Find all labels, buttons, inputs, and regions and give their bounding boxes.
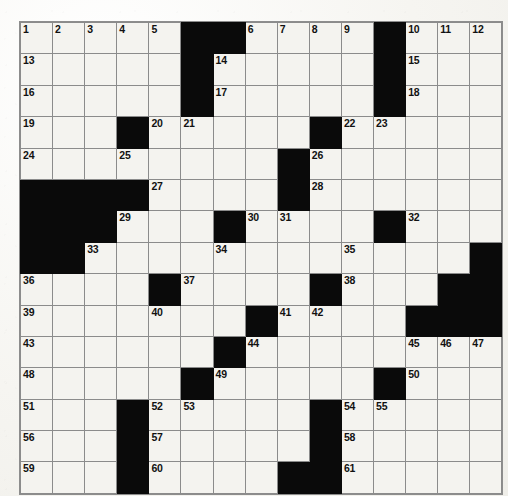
grid-cell[interactable] xyxy=(213,305,245,336)
grid-cell[interactable]: 1 xyxy=(21,23,53,54)
grid-cell[interactable] xyxy=(117,274,149,305)
grid-cell[interactable] xyxy=(213,179,245,210)
grid-cell[interactable] xyxy=(245,368,277,399)
grid-cell[interactable]: 28 xyxy=(309,179,341,210)
grid-cell[interactable] xyxy=(181,148,213,179)
grid-cell[interactable] xyxy=(85,85,117,116)
grid-cell[interactable]: 49 xyxy=(213,368,245,399)
grid-cell[interactable] xyxy=(117,336,149,367)
grid-cell[interactable] xyxy=(53,54,85,85)
grid-cell[interactable] xyxy=(149,368,181,399)
grid-cell[interactable] xyxy=(438,368,470,399)
grid-cell[interactable] xyxy=(85,274,117,305)
grid-cell[interactable] xyxy=(470,431,502,462)
grid-cell[interactable]: 9 xyxy=(341,23,373,54)
grid-cell[interactable]: 45 xyxy=(406,336,438,367)
grid-cell[interactable] xyxy=(470,462,502,493)
grid-cell[interactable]: 4 xyxy=(117,23,149,54)
grid-cell[interactable] xyxy=(181,431,213,462)
grid-cell[interactable]: 10 xyxy=(406,23,438,54)
grid-cell[interactable]: 41 xyxy=(277,305,309,336)
grid-cell[interactable] xyxy=(85,305,117,336)
grid-cell[interactable] xyxy=(277,336,309,367)
grid-cell[interactable] xyxy=(53,462,85,493)
grid-cell[interactable]: 53 xyxy=(181,399,213,430)
grid-cell[interactable] xyxy=(309,242,341,273)
grid-cell[interactable] xyxy=(53,368,85,399)
grid-cell[interactable]: 47 xyxy=(470,336,502,367)
grid-cell[interactable] xyxy=(245,117,277,148)
grid-cell[interactable]: 17 xyxy=(213,85,245,116)
grid-cell[interactable] xyxy=(438,148,470,179)
grid-cell[interactable] xyxy=(181,305,213,336)
grid-cell[interactable]: 36 xyxy=(21,274,53,305)
grid-cell[interactable] xyxy=(277,431,309,462)
grid-cell[interactable]: 20 xyxy=(149,117,181,148)
grid-cell[interactable]: 44 xyxy=(245,336,277,367)
grid-cell[interactable]: 21 xyxy=(181,117,213,148)
grid-cell[interactable] xyxy=(277,242,309,273)
grid-cell[interactable]: 31 xyxy=(277,211,309,242)
grid-cell[interactable]: 39 xyxy=(21,305,53,336)
grid-cell[interactable] xyxy=(277,399,309,430)
grid-cell[interactable] xyxy=(406,242,438,273)
grid-cell[interactable]: 8 xyxy=(309,23,341,54)
grid-cell[interactable] xyxy=(470,148,502,179)
grid-cell[interactable] xyxy=(341,336,373,367)
grid-cell[interactable]: 18 xyxy=(406,85,438,116)
grid-cell[interactable]: 57 xyxy=(149,431,181,462)
grid-cell[interactable]: 26 xyxy=(309,148,341,179)
grid-cell[interactable] xyxy=(213,399,245,430)
grid-cell[interactable] xyxy=(85,399,117,430)
grid-cell[interactable] xyxy=(406,179,438,210)
grid-cell[interactable] xyxy=(470,117,502,148)
grid-cell[interactable] xyxy=(341,54,373,85)
grid-cell[interactable]: 35 xyxy=(341,242,373,273)
grid-cell[interactable]: 51 xyxy=(21,399,53,430)
grid-cell[interactable] xyxy=(406,399,438,430)
grid-cell[interactable] xyxy=(181,462,213,493)
grid-cell[interactable] xyxy=(341,85,373,116)
grid-cell[interactable]: 3 xyxy=(85,23,117,54)
grid-cell[interactable]: 15 xyxy=(406,54,438,85)
grid-cell[interactable] xyxy=(438,117,470,148)
grid-cell[interactable] xyxy=(309,368,341,399)
grid-cell[interactable] xyxy=(245,148,277,179)
grid-cell[interactable] xyxy=(53,399,85,430)
grid-cell[interactable]: 5 xyxy=(149,23,181,54)
grid-cell[interactable] xyxy=(406,431,438,462)
grid-cell[interactable] xyxy=(374,336,406,367)
grid-cell[interactable]: 38 xyxy=(341,274,373,305)
grid-cell[interactable]: 6 xyxy=(245,23,277,54)
grid-cell[interactable] xyxy=(181,179,213,210)
grid-cell[interactable] xyxy=(374,431,406,462)
grid-cell[interactable] xyxy=(438,431,470,462)
grid-cell[interactable] xyxy=(341,368,373,399)
grid-cell[interactable]: 11 xyxy=(438,23,470,54)
grid-cell[interactable] xyxy=(245,399,277,430)
grid-cell[interactable]: 14 xyxy=(213,54,245,85)
grid-cell[interactable] xyxy=(309,211,341,242)
grid-cell[interactable] xyxy=(149,54,181,85)
grid-cell[interactable] xyxy=(374,179,406,210)
grid-cell[interactable]: 27 xyxy=(149,179,181,210)
grid-cell[interactable] xyxy=(309,336,341,367)
grid-cell[interactable] xyxy=(277,117,309,148)
grid-cell[interactable] xyxy=(374,148,406,179)
grid-cell[interactable] xyxy=(53,431,85,462)
grid-cell[interactable] xyxy=(213,117,245,148)
grid-cell[interactable] xyxy=(213,431,245,462)
grid-cell[interactable] xyxy=(309,54,341,85)
grid-cell[interactable] xyxy=(277,54,309,85)
grid-cell[interactable] xyxy=(277,274,309,305)
grid-cell[interactable]: 16 xyxy=(21,85,53,116)
grid-cell[interactable] xyxy=(406,117,438,148)
grid-cell[interactable]: 12 xyxy=(470,23,502,54)
grid-cell[interactable] xyxy=(85,117,117,148)
grid-cell[interactable]: 33 xyxy=(85,242,117,273)
grid-cell[interactable] xyxy=(117,54,149,85)
grid-cell[interactable] xyxy=(53,117,85,148)
grid-cell[interactable] xyxy=(470,54,502,85)
grid-cell[interactable] xyxy=(149,148,181,179)
grid-cell[interactable] xyxy=(117,368,149,399)
